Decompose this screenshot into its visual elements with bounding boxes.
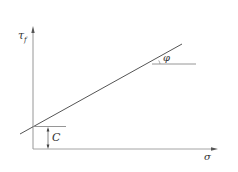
y-axis-arrow-icon — [31, 26, 34, 33]
failure-envelope-line — [20, 44, 182, 134]
friction-angle-label: φ — [163, 53, 170, 63]
angle-arc — [159, 60, 160, 64]
diagram-canvas — [0, 0, 238, 172]
x-axis-label: σ — [204, 152, 211, 162]
y-axis-label: τf — [18, 30, 27, 44]
cohesion-arrow-down-icon — [47, 145, 50, 150]
y-axis-subscript: f — [24, 36, 27, 44]
cohesion-label: C — [52, 132, 60, 143]
x-axis-arrow-icon — [211, 147, 218, 150]
cohesion-arrow-up-icon — [47, 127, 50, 132]
